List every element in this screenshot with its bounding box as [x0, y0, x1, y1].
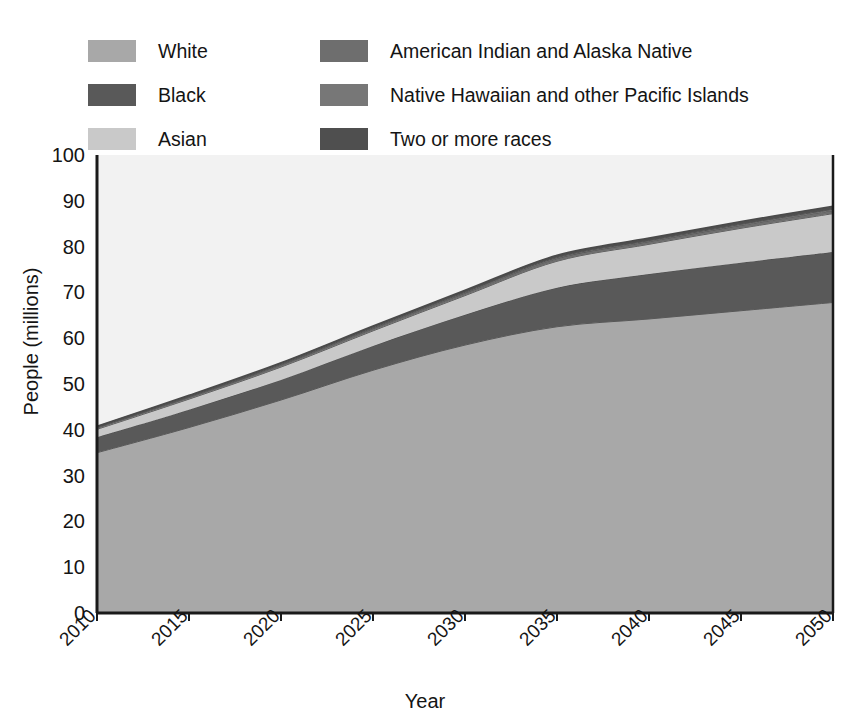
y-tick-label-10: 10	[25, 557, 85, 577]
y-tick-label-90: 90	[25, 191, 85, 211]
y-tick-label-20: 20	[25, 511, 85, 531]
chart-container: White Black Asian American Indian and Al…	[0, 0, 850, 725]
y-axis-title: People (millions)	[20, 227, 43, 457]
y-tick-label-100: 100	[25, 145, 85, 165]
plot-area: 0102030405060708090100 20102015202020252…	[0, 0, 850, 725]
y-tick-label-30: 30	[25, 466, 85, 486]
x-axis-title: Year	[0, 690, 850, 713]
